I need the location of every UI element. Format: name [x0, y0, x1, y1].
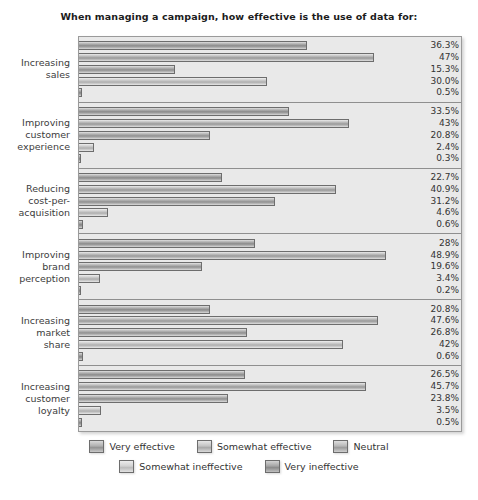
bar-row: 3.5%	[79, 406, 393, 415]
bar-groups: 36.3%47%15.3%30.0%0.5%33.5%43%20.8%2.4%0…	[79, 37, 461, 431]
bar[interactable]	[79, 239, 255, 248]
category-label-line: customer	[25, 393, 70, 405]
bar-row: 0.5%	[79, 88, 393, 97]
bar[interactable]	[79, 274, 100, 283]
bar-value-label: 47%	[399, 53, 459, 62]
bar-value-label: 42%	[399, 340, 459, 349]
bar[interactable]	[79, 208, 108, 217]
legend-item[interactable]: Very ineffective	[265, 460, 359, 473]
legend-row-1: Very effectiveSomewhat effectiveNeutral	[0, 440, 478, 453]
category-label-line: loyalty	[38, 405, 70, 417]
bar-row: 4.6%	[79, 208, 393, 217]
category-label-line: Improving	[22, 249, 70, 261]
bar-row: 31.2%	[79, 197, 393, 206]
bar-value-label: 2.4%	[399, 143, 459, 152]
bar[interactable]	[79, 382, 366, 391]
bar[interactable]	[79, 143, 94, 152]
bar-row: 0.3%	[79, 154, 393, 163]
plot-area: 36.3%47%15.3%30.0%0.5%33.5%43%20.8%2.4%0…	[78, 36, 462, 432]
bar-row: 26.5%	[79, 370, 393, 379]
bar-row: 20.8%	[79, 131, 393, 140]
bar[interactable]	[79, 220, 83, 229]
category-label-line: sales	[46, 69, 70, 81]
bar[interactable]	[79, 394, 228, 403]
legend-item[interactable]: Somewhat ineffective	[119, 460, 242, 473]
bar[interactable]	[79, 352, 83, 361]
bar-value-label: 48.9%	[399, 251, 459, 260]
bar-row: 47.6%	[79, 316, 393, 325]
bar-value-label: 0.6%	[399, 220, 459, 229]
legend-item[interactable]: Somewhat effective	[197, 440, 312, 453]
category-label-line: cost-per-	[28, 195, 70, 207]
bar[interactable]	[79, 340, 343, 349]
bar-row: 30.0%	[79, 77, 393, 86]
legend-label: Very ineffective	[285, 461, 359, 472]
bar[interactable]	[79, 154, 81, 163]
bar-group: 26.5%45.7%23.8%3.5%0.5%	[79, 366, 461, 431]
bar-row: 0.2%	[79, 286, 393, 295]
bar[interactable]	[79, 65, 175, 74]
bar-value-label: 26.5%	[399, 370, 459, 379]
bar[interactable]	[79, 418, 82, 427]
category-label-line: share	[44, 339, 70, 351]
bar-row: 2.4%	[79, 143, 393, 152]
category-label: Increasingmarketshare	[0, 300, 74, 366]
bar-value-label: 19.6%	[399, 262, 459, 271]
bar-value-label: 40.9%	[399, 185, 459, 194]
legend-label: Very effective	[109, 441, 174, 452]
category-label-line: acquisition	[18, 207, 70, 219]
bar-row: 0.5%	[79, 418, 393, 427]
bar-row: 48.9%	[79, 251, 393, 260]
bar-row: 40.9%	[79, 185, 393, 194]
bar[interactable]	[79, 53, 374, 62]
bar-row: 19.6%	[79, 262, 393, 271]
bar-row: 47%	[79, 53, 393, 62]
legend-item[interactable]: Very effective	[89, 440, 174, 453]
category-label-line: Improving	[22, 117, 70, 129]
bar-value-label: 0.2%	[399, 286, 459, 295]
bar[interactable]	[79, 131, 210, 140]
category-label-line: Increasing	[21, 381, 70, 393]
legend-label: Somewhat ineffective	[139, 461, 242, 472]
bar[interactable]	[79, 316, 378, 325]
legend-item[interactable]: Neutral	[333, 440, 388, 453]
bar[interactable]	[79, 119, 349, 128]
bar[interactable]	[79, 173, 222, 182]
bar[interactable]	[79, 77, 267, 86]
bar-value-label: 45.7%	[399, 382, 459, 391]
bar-value-label: 47.6%	[399, 316, 459, 325]
bar[interactable]	[79, 251, 386, 260]
bar-value-label: 0.5%	[399, 88, 459, 97]
bar[interactable]	[79, 286, 81, 295]
bar-value-label: 43%	[399, 119, 459, 128]
bar[interactable]	[79, 107, 289, 116]
bar-group: 28%48.9%19.6%3.4%0.2%	[79, 234, 461, 300]
bar-value-label: 31.2%	[399, 197, 459, 206]
legend-swatch	[89, 440, 104, 453]
bar-value-label: 30.0%	[399, 77, 459, 86]
bar[interactable]	[79, 197, 275, 206]
bar[interactable]	[79, 370, 245, 379]
chart-container: When managing a campaign, how effective …	[0, 0, 478, 500]
bar[interactable]	[79, 262, 202, 271]
legend-row-2: Somewhat ineffectiveVery ineffective	[0, 460, 478, 473]
chart-title: When managing a campaign, how effective …	[0, 11, 478, 22]
bar[interactable]	[79, 305, 210, 314]
bar[interactable]	[79, 41, 307, 50]
bar-row: 3.4%	[79, 274, 393, 283]
bar-group: 33.5%43%20.8%2.4%0.3%	[79, 103, 461, 169]
category-label-line: Increasing	[21, 315, 70, 327]
bar[interactable]	[79, 406, 101, 415]
legend-swatch	[333, 440, 348, 453]
legend-swatch	[119, 460, 134, 473]
bar-value-label: 0.3%	[399, 154, 459, 163]
bar-row: 36.3%	[79, 41, 393, 50]
bar-row: 15.3%	[79, 65, 393, 74]
bar-value-label: 15.3%	[399, 65, 459, 74]
bar-row: 28%	[79, 239, 393, 248]
bar[interactable]	[79, 328, 247, 337]
bar[interactable]	[79, 88, 82, 97]
bar-group: 22.7%40.9%31.2%4.6%0.6%	[79, 169, 461, 235]
category-label: Improvingbrandperception	[0, 234, 74, 300]
bar[interactable]	[79, 185, 336, 194]
